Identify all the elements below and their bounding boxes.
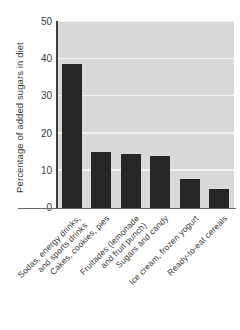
y-tick-label: 10 [22, 165, 52, 176]
chart-title-cropped [62, 0, 192, 3]
bar[interactable] [121, 154, 141, 208]
x-tick-labels: Sodas, energy drinks,and sports drinksCa… [0, 208, 240, 330]
y-tick-label: 40 [22, 53, 52, 64]
bar[interactable] [150, 156, 170, 208]
y-tick-label: 30 [22, 90, 52, 101]
plot-area [57, 22, 234, 208]
y-tick-label: 20 [22, 128, 52, 139]
bar[interactable] [180, 179, 200, 208]
bar[interactable] [91, 152, 111, 208]
bar-chart-figure: Percentage of added sugars in diet 0 10 … [0, 0, 240, 330]
bar[interactable] [209, 189, 229, 208]
bar-series [57, 22, 234, 208]
bar[interactable] [62, 64, 82, 208]
y-tick-label: 50 [22, 16, 52, 27]
y-axis-label: Percentage of added sugars in diet [14, 18, 25, 218]
y-axis-spine [56, 21, 58, 209]
x-tick-label: Ready-to-eat cereals [166, 214, 230, 278]
